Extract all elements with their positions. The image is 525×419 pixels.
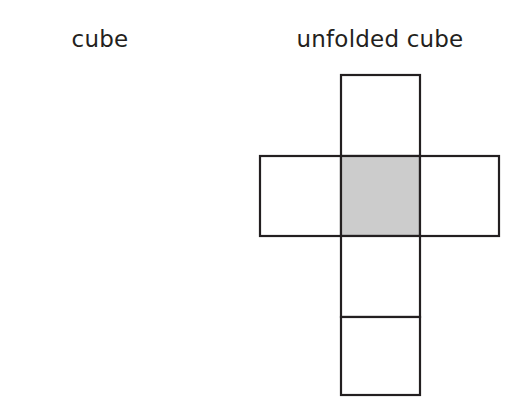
unfolded-cube-net [260,75,499,395]
net-cell-middle-right-square [420,156,499,236]
net-cell-bottom-square [341,317,420,395]
net-cell-top-square [341,75,420,156]
figure-root: cube unfolded cube [0,0,525,419]
net-cell-middle-center-square [341,156,420,236]
net-cell-middle-left-square [260,156,341,236]
net-cell-lower-square [341,236,420,317]
figure-canvas [0,0,525,419]
